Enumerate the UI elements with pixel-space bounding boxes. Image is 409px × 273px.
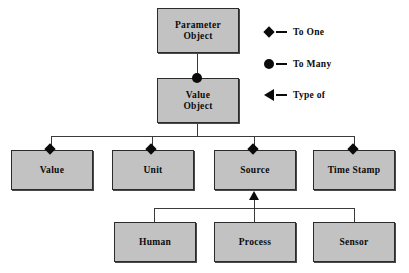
node-label-source: Source: [240, 165, 270, 176]
diamond-icon: [262, 25, 276, 39]
connector-value-object-stem: [197, 123, 198, 137]
legend-label-to-one: To One: [293, 27, 324, 37]
node-label-value-object: Value Object: [183, 90, 212, 112]
node-label-parameter-object: Parameter Object: [175, 20, 221, 42]
node-time-stamp[interactable]: Time Stamp: [313, 150, 395, 190]
node-label-time-stamp: Time Stamp: [328, 165, 381, 176]
connector-drop-sensor: [354, 208, 355, 222]
diamond-marker-value: [46, 145, 54, 153]
node-human[interactable]: Human: [114, 222, 196, 262]
circle-icon: [262, 57, 276, 71]
node-source[interactable]: Source: [214, 150, 296, 190]
legend-item-type-of: Type of: [262, 87, 325, 103]
legend-label-type-of: Type of: [293, 90, 325, 100]
circle-marker-value-object: [192, 73, 202, 83]
node-label-human: Human: [139, 237, 171, 248]
diamond-marker-time-stamp: [349, 145, 357, 153]
node-unit[interactable]: Unit: [112, 150, 194, 190]
connector-drop-human: [154, 208, 155, 222]
triangle-left-icon: [262, 88, 276, 102]
node-parameter-object[interactable]: Parameter Object: [157, 8, 239, 53]
legend-stem-to-many: [276, 63, 287, 65]
node-value-object[interactable]: Value Object: [157, 78, 239, 123]
connector-bus-row2: [51, 136, 354, 137]
legend-stem-to-one: [276, 31, 287, 33]
legend-label-to-many: To Many: [293, 59, 331, 69]
node-label-sensor: Sensor: [339, 237, 368, 248]
legend: To One To Many Type of: [262, 24, 402, 108]
diamond-marker-unit: [147, 145, 155, 153]
node-label-unit: Unit: [143, 165, 162, 176]
node-label-value: Value: [40, 165, 64, 176]
connector-source-generalization-stem: [254, 199, 255, 208]
legend-stem-type-of: [276, 94, 287, 96]
node-label-process: Process: [239, 237, 272, 248]
node-sensor[interactable]: Sensor: [313, 222, 395, 262]
legend-item-to-one: To One: [262, 24, 324, 40]
connector-drop-process: [254, 208, 255, 222]
object-model-diagram: Parameter Object Value Object Value Unit…: [0, 0, 409, 273]
legend-item-to-many: To Many: [262, 56, 331, 72]
node-process[interactable]: Process: [214, 222, 296, 262]
diamond-marker-source: [249, 145, 257, 153]
node-value[interactable]: Value: [11, 150, 93, 190]
triangle-up-marker-source: [249, 191, 259, 200]
